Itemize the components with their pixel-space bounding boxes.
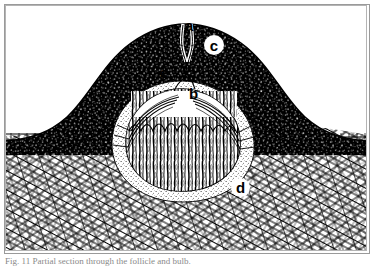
figure-page: a c e b d Fig. 11 Partial section throug…: [0, 0, 374, 267]
figure-caption: Fig. 11 Partial section through the foll…: [5, 256, 369, 267]
figure-illustration: a c e b d: [5, 5, 367, 251]
figure-label-d: d: [231, 178, 250, 197]
figure-label-b: b: [189, 86, 198, 101]
figure-label-c: c: [204, 35, 224, 55]
figure-label-e: e: [160, 65, 168, 80]
illustration-svg: [5, 5, 367, 251]
figure-label-a: a: [185, 18, 193, 33]
figure-frame: a c e b d: [4, 4, 370, 254]
figure-caption-text: Fig. 11 Partial section through the foll…: [5, 256, 369, 266]
